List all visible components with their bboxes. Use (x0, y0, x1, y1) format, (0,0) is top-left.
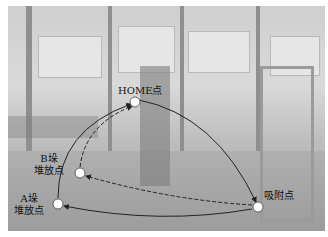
path-home-to-suction (139, 100, 256, 202)
b-stack-point-marker (75, 168, 85, 178)
a-stack-label-line1: A垛 (14, 193, 44, 205)
b-stack-label-line2: 堆放点 (34, 165, 64, 177)
home-point-label: HOME点 (118, 85, 162, 97)
b-stack-label-line1: B垛 (34, 153, 64, 165)
suction-point-marker (253, 202, 263, 212)
a-stack-label-line2: 堆放点 (14, 205, 44, 217)
path-suction-to-a (64, 206, 252, 216)
a-stack-label: A垛 堆放点 (14, 193, 44, 217)
home-point-marker (130, 97, 140, 107)
path-a-to-home (58, 104, 131, 198)
b-stack-label: B垛 堆放点 (34, 153, 64, 177)
path-suction-to-b (86, 176, 252, 205)
suction-point-label: 吸附点 (264, 190, 294, 202)
a-stack-point-marker (53, 199, 63, 209)
